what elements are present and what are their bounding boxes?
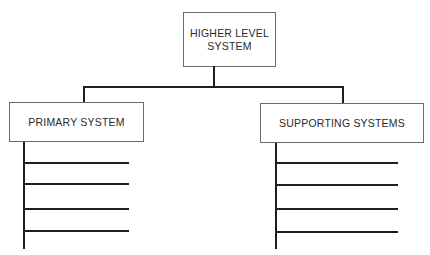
primary-system-box: PRIMARY SYSTEM — [9, 102, 144, 142]
right-drop-connector — [342, 86, 344, 103]
supporting-sub-item-line — [275, 208, 398, 210]
supporting-sub-item-line — [275, 231, 398, 233]
supporting-sub-item-line — [275, 184, 398, 186]
top-stem-connector — [213, 66, 215, 88]
supporting-systems-box: SUPPORTING SYSTEMS — [260, 103, 424, 143]
primary-sub-item-line — [23, 162, 129, 164]
higher-level-system-label-line2: SYSTEM — [207, 40, 251, 53]
primary-sub-item-line — [23, 183, 129, 185]
horizontal-connector — [83, 86, 344, 88]
supporting-sub-item-line — [275, 162, 398, 164]
primary-system-label: PRIMARY SYSTEM — [28, 116, 124, 129]
supporting-spine — [275, 143, 277, 249]
higher-level-system-label-line1: HIGHER LEVEL — [190, 27, 269, 40]
higher-level-system-box: HIGHER LEVEL SYSTEM — [183, 12, 276, 67]
primary-spine — [23, 142, 25, 249]
primary-sub-item-line — [23, 230, 129, 232]
supporting-systems-label: SUPPORTING SYSTEMS — [279, 117, 405, 130]
primary-sub-item-line — [23, 208, 129, 210]
left-drop-connector — [83, 86, 85, 103]
